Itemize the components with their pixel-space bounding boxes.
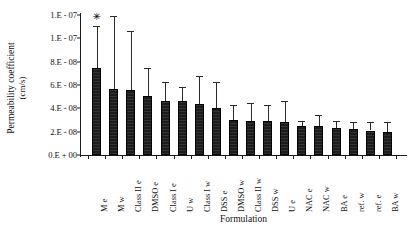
bar [109,89,118,155]
error-bar [233,105,234,120]
bar [92,68,101,156]
x-tick-label: Class II e [134,180,143,212]
error-bar [216,82,217,109]
error-bar [353,122,354,130]
error-bar-cap [179,87,186,88]
x-tick-label: U e [288,200,297,212]
error-bar [336,121,337,128]
error-bar [165,82,166,101]
x-tick-label: Class I e [169,183,178,212]
error-bar-cap [196,76,203,77]
y-tick-mark [77,155,81,156]
y-tick-label: 1.E - 07 [50,10,77,20]
bar [161,101,170,155]
y-tick-label: 8.E - 08 [50,57,77,67]
permeability-bar-chart: Permeability coefficient (cm/s) 0.E + 00… [0,0,416,236]
error-bar [251,103,252,121]
x-tick-label: DSS w [271,188,280,212]
error-bar-cap [127,31,134,32]
bar [349,129,358,155]
error-bar-cap [281,101,288,102]
y-tick-mark [77,61,81,62]
significance-star: ✳ [92,13,100,21]
y-tick-mark [77,131,81,132]
error-bar-cap [333,121,340,122]
y-axis-title: Permeability coefficient (cm/s) [0,0,34,175]
error-bar-cap [298,121,305,122]
error-bar-cap [367,122,374,123]
bar [195,104,204,155]
error-bar [182,87,183,101]
error-bar [285,101,286,122]
bar [246,121,255,155]
bar [126,90,135,155]
error-bar-cap [93,26,100,27]
error-bar-cap [247,103,254,104]
x-tick-label: Class I w [203,181,212,212]
bar [314,126,323,155]
y-tick-mark [77,38,81,39]
error-bar [131,31,132,89]
y-tick-label: 1.E - 07 [50,33,77,43]
y-tick-mark [77,85,81,86]
bar [332,128,341,155]
bar [178,101,187,155]
bar [229,120,238,155]
x-tick-label: M w [117,196,126,212]
bar [143,96,152,156]
y-axis-title-line2: (cm/s) [17,42,28,133]
error-bar [268,105,269,121]
x-tick-label: BA w [391,193,400,212]
x-axis-line [80,155,407,156]
error-bar [199,76,200,104]
x-tick-label: DMSO e [151,182,160,212]
bar [297,126,306,155]
x-tick-label: NAC w [322,186,331,212]
x-axis-title: Formulation [80,214,407,224]
plot-area: ✳ [80,15,405,155]
error-bar-cap [264,105,271,106]
x-axis-tick-labels: M eM wClass II eDMSO eClass I eU wClass … [0,158,416,216]
error-bar [148,68,149,96]
y-axis-title-line1: Permeability coefficient [6,42,16,133]
x-tick-label: U w [186,198,195,212]
error-bar-cap [384,122,391,123]
x-tick-label: DMSO w [237,180,246,212]
x-tick-label: BA e [340,195,349,212]
y-tick-label: 2.E - 08 [50,127,77,137]
y-axis-tick-labels: 0.E + 002.E - 084.E - 086.E - 088.E - 08… [30,0,80,175]
x-tick-label: ref. w [357,192,366,212]
x-tick-label: ref. e [374,195,383,212]
error-bar-cap [144,68,151,69]
bar [383,132,392,155]
bar [280,122,289,155]
y-tick-mark [77,15,81,16]
error-bar-cap [230,105,237,106]
x-tick-label: NAC e [305,189,314,213]
error-bar [319,115,320,127]
y-tick-mark [77,108,81,109]
x-tick-label: Class II w [254,178,263,212]
error-bar [387,122,388,131]
error-bar-cap [213,82,220,83]
error-bar-cap [315,115,322,116]
x-tick-label: DSS e [220,191,229,212]
y-tick-label: 4.E - 08 [50,103,77,113]
error-bar-cap [350,122,357,123]
error-bar-cap [110,16,117,17]
error-bar [97,26,98,68]
error-bar [370,122,371,130]
error-bar [114,16,115,90]
bar [366,131,375,156]
bar [212,108,221,155]
y-tick-label: 6.E - 08 [50,80,77,90]
x-tick-label: M e [100,199,109,212]
bar [263,121,272,155]
error-bar-cap [162,82,169,83]
